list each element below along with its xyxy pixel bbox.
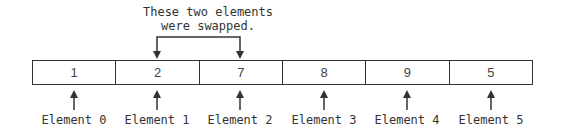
element-label-2: Element 2 — [198, 113, 282, 127]
swap-arrowheads-icon — [153, 51, 244, 59]
array-cell-1: 2 — [116, 61, 199, 84]
element-label-0: Element 0 — [32, 113, 116, 127]
array-cell-3: 8 — [283, 61, 366, 84]
swap-bracket-icon — [157, 37, 240, 52]
element-label-5: Element 5 — [449, 113, 533, 127]
element-label-3: Element 3 — [282, 113, 366, 127]
element-pointer-arrows-icon — [70, 90, 495, 110]
element-label-1: Element 1 — [115, 113, 199, 127]
array-cell-5: 5 — [450, 61, 532, 84]
array-box: 1 2 7 8 9 5 — [32, 60, 533, 85]
array-cell-4: 9 — [366, 61, 449, 84]
swap-diagram: These two elements were swapped. — [0, 0, 562, 130]
element-label-4: Element 4 — [365, 113, 449, 127]
array-cell-0: 1 — [33, 61, 116, 84]
array-cell-2: 7 — [200, 61, 283, 84]
